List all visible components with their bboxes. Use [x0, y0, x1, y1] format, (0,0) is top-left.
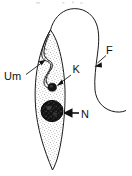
label-n: N	[63, 108, 89, 120]
f-leader-line	[98, 56, 107, 64]
f-label: F	[106, 44, 113, 56]
um-label: Um	[4, 70, 21, 82]
k-label: K	[73, 63, 81, 75]
trypanosome-diagram: Um K N F	[0, 0, 132, 176]
figure-canvas: Um K N F	[0, 0, 132, 176]
cell-body	[35, 30, 65, 170]
kinetoplast	[48, 83, 56, 91]
scan-artifacts	[36, 1, 83, 3]
n-label: N	[81, 108, 89, 120]
nucleus	[41, 100, 63, 121]
